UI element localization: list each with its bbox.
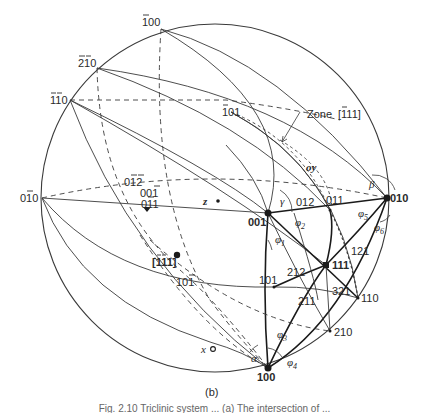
label-212: 212	[287, 266, 305, 278]
label-bar101: 101	[222, 106, 240, 118]
panel-label: (b)	[205, 386, 218, 398]
label-321: 321	[332, 285, 350, 297]
zone-label-indices: [111]	[338, 108, 361, 120]
alpha-label: α	[251, 352, 257, 364]
label-121: 121	[351, 245, 369, 257]
phi5-label: φ5	[358, 207, 368, 222]
gamma-label: γ	[280, 195, 285, 207]
oy-label: oy	[306, 161, 317, 173]
label-210: 210	[334, 326, 352, 338]
x-point-marker	[211, 347, 216, 352]
z-label: z	[202, 195, 208, 207]
phi2-label: φ2	[295, 216, 305, 231]
pole-111-marker	[323, 262, 329, 268]
label-bar1bar10: 110	[50, 94, 68, 106]
stereographic-projection-figure: 100 210 110 010 101 012 001 011 101 001 …	[0, 0, 429, 413]
label-110: 110	[361, 292, 379, 304]
figure-caption: Fig. 2.10 Triclinic system ... (a) The i…	[0, 400, 429, 413]
beta-label: β	[368, 178, 375, 190]
phi1-label: φ1	[275, 233, 285, 248]
label-001: 001	[248, 216, 266, 228]
label-0bar10: 010	[20, 192, 38, 204]
x-label: x	[200, 343, 206, 355]
zone-label-text: Zone	[307, 108, 332, 120]
zone-label-leader	[282, 112, 300, 142]
label-bar2bar10: 210	[78, 57, 96, 69]
label-012: 012	[296, 196, 314, 208]
label-101: 101	[259, 274, 277, 286]
label-bar100: 100	[142, 16, 160, 28]
phi6-label: φ6	[374, 221, 384, 236]
z-point-marker	[216, 199, 220, 203]
label-100: 100	[257, 371, 275, 383]
phi4-label: φ4	[287, 356, 297, 371]
label-011: 011	[326, 194, 344, 206]
label-010: 010	[390, 192, 408, 204]
label-zone-axis: [111]	[152, 256, 177, 268]
label-111: 111	[332, 259, 349, 271]
label-0bar11: 011	[141, 198, 159, 210]
label-10bar1: 101	[176, 276, 194, 288]
label-211: 211	[298, 295, 316, 307]
